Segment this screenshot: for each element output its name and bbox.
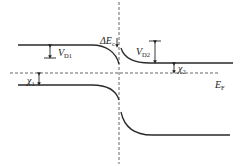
vd2-label: VD2	[136, 46, 150, 58]
ef-label: EF	[214, 79, 225, 91]
band-diagram: VD1 χ1 ΔEc VD2 χ2 EF	[0, 0, 240, 166]
vd1-label: VD1	[58, 47, 72, 59]
valence-band-left	[18, 85, 119, 100]
chi2-label: χ2	[177, 63, 186, 75]
delta-ec-label: ΔEc	[99, 35, 115, 47]
vd1-marker	[44, 46, 56, 58]
valence-band-right	[121, 112, 230, 135]
vd2-marker	[149, 41, 161, 62]
chi1-label: χ1	[26, 75, 35, 87]
